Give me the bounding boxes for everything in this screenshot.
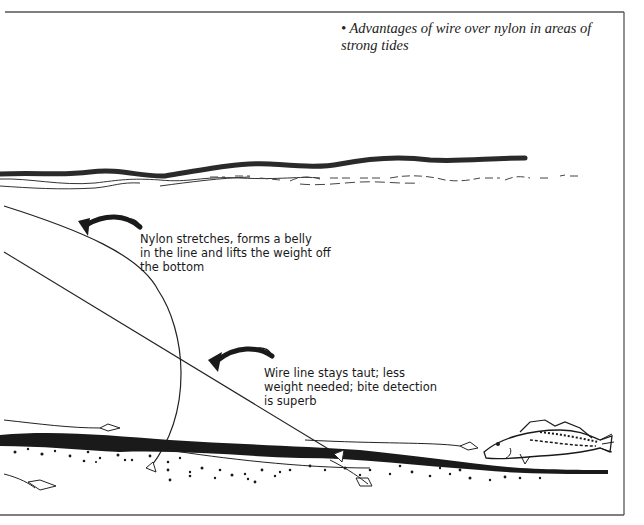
diagram-caption: • Advantages of wire over nylon in areas… xyxy=(341,20,631,54)
annotation-wire: Wire line stays taut; less weight needed… xyxy=(264,366,444,408)
sea-surface xyxy=(0,158,580,189)
annotation-nylon: Nylon stretches, forms a belly in the li… xyxy=(140,232,340,274)
curved-arrow-icon xyxy=(208,348,272,372)
caption-text: Advantages of wire over nylon in areas o… xyxy=(341,20,591,53)
diagram-frame: • Advantages of wire over nylon in areas… xyxy=(0,0,644,525)
curved-arrow-icon xyxy=(78,217,140,236)
bullet-icon: • xyxy=(341,20,346,36)
cod-fish-icon xyxy=(484,420,614,464)
lure-icon xyxy=(4,420,120,490)
